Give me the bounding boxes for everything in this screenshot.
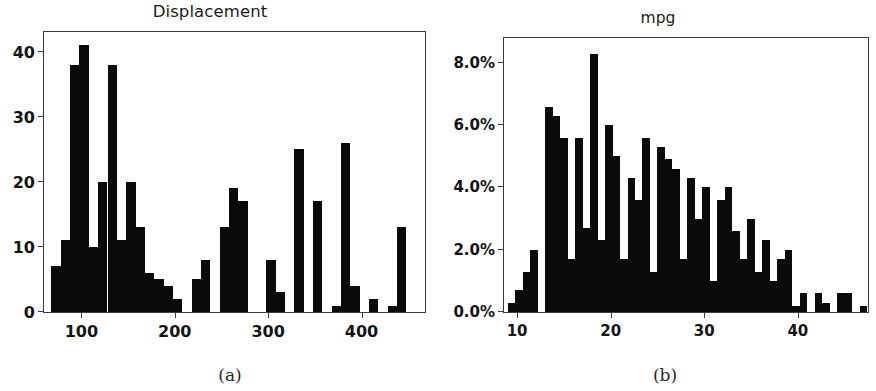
y-tick-mark	[38, 51, 44, 52]
y-tick-label: 8.0%	[453, 54, 495, 72]
y-tick-label: 0	[24, 303, 35, 322]
histogram-bar	[770, 281, 777, 312]
histogram-bar	[530, 250, 537, 312]
histogram-bar	[837, 293, 844, 312]
histogram-bar	[70, 65, 79, 312]
histogram-bar	[154, 279, 163, 312]
histogram-bar	[672, 169, 679, 312]
x-tick-mark	[362, 312, 363, 318]
histogram-bar	[388, 306, 397, 313]
histogram-bar	[201, 260, 210, 312]
histogram-bar	[276, 292, 285, 312]
histogram-bar	[628, 178, 635, 312]
x-tick-mark	[517, 312, 518, 318]
histogram-bar	[523, 272, 530, 312]
histogram-bar	[553, 116, 560, 312]
histogram-bar	[117, 240, 126, 312]
histogram-bar	[650, 272, 657, 312]
histogram-bar	[350, 286, 359, 312]
x-tick-mark	[704, 312, 705, 318]
histogram-bar	[61, 240, 70, 312]
plot-area-displacement: 010203040 100200300400	[43, 31, 426, 313]
histogram-bar	[620, 259, 627, 312]
y-tick-label: 40	[13, 42, 35, 61]
x-tick-label: 300	[251, 322, 284, 341]
histogram-bar	[822, 303, 829, 312]
y-tick-label: 20	[13, 172, 35, 191]
histogram-bar	[740, 259, 747, 312]
x-tick-label: 200	[158, 322, 191, 341]
chart-title-displacement: Displacement	[0, 2, 420, 21]
histogram-bar	[725, 187, 732, 312]
x-tick-label: 30	[694, 322, 715, 340]
histogram-bar	[702, 187, 709, 312]
x-tick-label: 10	[507, 322, 528, 340]
histogram-bar	[687, 178, 694, 312]
histogram-bar	[79, 45, 88, 312]
histogram-bar	[332, 306, 341, 313]
histogram-bar	[220, 227, 229, 312]
histogram-bar	[845, 293, 852, 312]
histogram-bar	[515, 290, 522, 312]
histogram-bar	[126, 182, 135, 312]
figure-two-panel-histograms: Displacement 010203040 100200300400 (a) …	[0, 0, 876, 391]
histogram-bar	[313, 201, 322, 312]
histogram-bar	[545, 107, 552, 313]
histogram-bar	[568, 259, 575, 312]
histogram-bar	[229, 188, 238, 312]
histogram-bar	[508, 303, 515, 312]
histogram-bar	[785, 250, 792, 312]
chart-title-mpg: mpg	[440, 9, 876, 27]
panel-b-mpg: mpg 0.0%2.0%4.0%6.0%8.0% 10203040 (b)	[440, 0, 876, 391]
x-tick-label: 400	[345, 322, 378, 341]
histogram-bar	[583, 228, 590, 312]
x-tick-label: 20	[600, 322, 621, 340]
y-tick-label: 0.0%	[453, 303, 495, 321]
histogram-bar	[815, 293, 822, 312]
histogram-bar	[192, 279, 201, 312]
histogram-bar	[605, 125, 612, 312]
histogram-bar	[575, 138, 582, 312]
histogram-bar	[613, 156, 620, 312]
histogram-bar	[762, 240, 769, 312]
histogram-bar	[108, 65, 117, 312]
histogram-bar	[590, 54, 597, 312]
y-tick-label: 6.0%	[453, 116, 495, 134]
histogram-bar	[238, 201, 247, 312]
x-tick-mark	[81, 312, 82, 318]
histogram-bar	[266, 260, 275, 312]
histogram-bar	[89, 247, 98, 312]
panel-a-displacement: Displacement 010203040 100200300400 (a)	[0, 0, 440, 391]
histogram-bars-mpg	[504, 38, 868, 312]
x-tick-mark	[611, 312, 612, 318]
x-tick-label: 100	[65, 322, 98, 341]
y-tick-mark	[38, 246, 44, 247]
subcaption-a: (a)	[0, 365, 460, 385]
histogram-bars-displacement	[44, 32, 425, 312]
y-tick-mark	[498, 249, 504, 250]
histogram-bar	[173, 299, 182, 312]
histogram-bar	[136, 227, 145, 312]
y-tick-mark	[498, 311, 504, 312]
y-tick-mark	[38, 116, 44, 117]
y-tick-mark	[38, 181, 44, 182]
y-tick-label: 2.0%	[453, 241, 495, 259]
histogram-bar	[710, 281, 717, 312]
histogram-bar	[695, 219, 702, 312]
histogram-bar	[51, 266, 60, 312]
histogram-bar	[98, 182, 107, 312]
histogram-bar	[800, 293, 807, 312]
histogram-bar	[747, 219, 754, 312]
histogram-bar	[755, 272, 762, 312]
histogram-bar	[145, 273, 154, 312]
histogram-bar	[397, 227, 406, 312]
histogram-bar	[294, 149, 303, 312]
y-tick-mark	[498, 186, 504, 187]
histogram-bar	[717, 200, 724, 312]
y-tick-label: 4.0%	[453, 178, 495, 196]
histogram-bar	[642, 138, 649, 312]
y-tick-label: 30	[13, 107, 35, 126]
y-tick-mark	[498, 124, 504, 125]
histogram-bar	[777, 259, 784, 312]
histogram-bar	[732, 231, 739, 312]
